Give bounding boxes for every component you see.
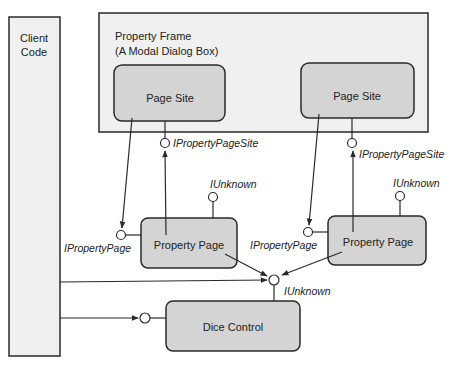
property-page-left: Property Page bbox=[141, 218, 237, 268]
page-site-right-label: Page Site bbox=[333, 90, 381, 102]
arrow-client-to-iunknown bbox=[60, 280, 267, 282]
iunknown-dice-lollipop: IUnknown bbox=[269, 275, 331, 301]
page-site-right: Page Site bbox=[301, 63, 414, 118]
property-page-left-label: Property Page bbox=[154, 239, 224, 251]
iunknown-pp-left-lollipop: IUnknown bbox=[209, 178, 257, 218]
iunknown-pp-left-label: IUnknown bbox=[210, 178, 257, 190]
property-page-right: Property Page bbox=[328, 216, 426, 265]
ipropertypage-left-lollipop: IPropertyPage bbox=[64, 231, 141, 255]
iunknown-dice-label: IUnknown bbox=[284, 285, 331, 297]
ipropertypage-right-lollipop: IPropertyPage bbox=[250, 228, 328, 252]
dice-control-label: Dice Control bbox=[203, 321, 264, 333]
ipropertypagesite-left-label: IPropertyPageSite bbox=[173, 137, 258, 149]
property-page-right-label: Property Page bbox=[343, 236, 413, 248]
iunknown-pp-right-lollipop: IUnknown bbox=[393, 177, 440, 216]
ipropertypage-right-label: IPropertyPage bbox=[250, 239, 317, 251]
dice-control-interface-lollipop bbox=[140, 313, 166, 323]
ipropertypagesite-right-label: IPropertyPageSite bbox=[359, 148, 444, 160]
property-frame-title: Property Frame bbox=[115, 30, 191, 42]
iunknown-pp-right-label: IUnknown bbox=[393, 177, 440, 189]
page-site-left-label: Page Site bbox=[146, 92, 194, 104]
dice-control-box: Dice Control bbox=[166, 301, 300, 351]
client-code-label-1: Client bbox=[20, 32, 48, 44]
client-code-box: Client Code bbox=[9, 17, 60, 356]
page-site-left: Page Site bbox=[114, 65, 225, 121]
arrow-pagesite-to-ipropertypage-left bbox=[122, 118, 132, 228]
property-frame-subtitle: (A Modal Dialog Box) bbox=[115, 45, 218, 57]
client-code-label-2: Code bbox=[21, 46, 47, 58]
component-diagram: Client Code Property Frame (A Modal Dial… bbox=[0, 0, 452, 370]
ipropertypage-left-label: IPropertyPage bbox=[64, 242, 131, 254]
